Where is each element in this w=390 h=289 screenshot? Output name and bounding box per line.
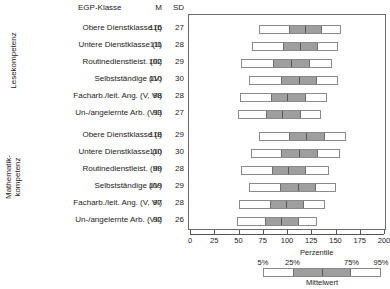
row-label: Untere Dienstklasse (II) [30, 40, 162, 49]
x-axis-tick-label: 200 [378, 236, 390, 245]
legend-box [263, 268, 381, 277]
boxplot-bar [252, 42, 338, 51]
boxplot-bar [241, 166, 328, 175]
x-axis-tick-label: 150 [329, 236, 342, 245]
boxplot-bar [249, 183, 336, 192]
boxplot-mean-line [306, 133, 307, 140]
row-label: Routinedienstleist. (III) [30, 164, 162, 173]
row-label: Facharb./leit. Ang. (V, VI) [30, 91, 162, 100]
column-header-m: M [146, 3, 162, 12]
row-mean-value: 102 [144, 57, 162, 66]
row-mean-value: 110 [144, 74, 162, 83]
row-sd-value: 30 [166, 147, 184, 156]
row-sd-value: 27 [166, 23, 184, 32]
boxplot-bar [239, 200, 325, 209]
row-sd-value: 29 [166, 57, 184, 66]
boxplot-mean-line [286, 201, 287, 208]
row-label: Routinedienstleist. (III) [30, 57, 162, 66]
row-sd-value: 26 [166, 215, 184, 224]
row-label: Facharb./leit. Ang. (V, VI) [30, 198, 162, 207]
row-sd-value: 28 [166, 91, 184, 100]
boxplot-bar [237, 217, 318, 226]
boxplot-mean-line [299, 77, 300, 84]
boxplot-bar [240, 93, 327, 102]
boxplot-bar [241, 59, 331, 68]
boxplot-mean-line [287, 94, 288, 101]
row-sd-value: 28 [166, 164, 184, 173]
boxplot-mean-line [305, 26, 306, 33]
boxplot-mean-line [288, 167, 289, 174]
row-label: Selbstständige (IV) [30, 181, 162, 190]
group-label-mathematikkompetenz: Mathematik- kompetenz [4, 142, 22, 212]
x-axis [190, 234, 384, 235]
column-header-egp: EGP-Klasse [78, 3, 122, 12]
boxplot-bar [259, 25, 341, 34]
legend-percentile-label: 5% [258, 258, 269, 267]
boxplot-mean-line [299, 150, 300, 157]
x-axis-tick-label: 50 [234, 236, 242, 245]
legend-mean-label: Mittelwert [306, 278, 338, 287]
row-label: Untere Dienstklasse (II) [30, 147, 162, 156]
row-mean-value: 116 [144, 23, 162, 32]
x-axis-tick-label: 125 [305, 236, 318, 245]
legend-percentile-label: 95% [373, 258, 388, 267]
row-label: Obere Dienstklasse (I) [30, 130, 162, 139]
row-label: Un-/angelernte Arb. (VII) [30, 108, 162, 117]
x-axis-tick-label: 175 [353, 236, 366, 245]
x-axis-tick-label: 100 [281, 236, 294, 245]
x-axis-tick-label: 25 [210, 236, 218, 245]
x-axis-tick [384, 230, 385, 234]
row-sd-value: 29 [166, 181, 184, 190]
boxplot-mean-line [298, 184, 299, 191]
x-axis-tick [190, 230, 191, 234]
x-axis-tick-label: 75 [259, 236, 267, 245]
chart-figure: Lesekompetenz Mathematik- kompetenz EGP-… [0, 0, 390, 289]
x-axis-tick-label: 0 [188, 236, 192, 245]
row-mean-value: 110 [144, 147, 162, 156]
row-sd-value: 28 [166, 40, 184, 49]
row-sd-value: 29 [166, 130, 184, 139]
boxplot-mean-line [282, 111, 283, 118]
legend-percentile-label: 25% [285, 258, 300, 267]
boxplot-bar [238, 110, 321, 119]
x-axis-label: Perzentile [300, 248, 333, 257]
boxplot-iqr [271, 94, 307, 101]
x-axis-tick [336, 230, 337, 234]
boxplot-bar [259, 132, 346, 141]
boxplot-mean-line [291, 60, 292, 67]
row-mean-value: 97 [144, 198, 162, 207]
row-mean-value: 93 [144, 108, 162, 117]
row-mean-value: 118 [144, 130, 162, 139]
row-sd-value: 30 [166, 74, 184, 83]
boxplot-mean-line [300, 43, 301, 50]
group-label-lesekompetenz: Lesekompetenz [9, 26, 18, 96]
boxplot-bar [251, 149, 340, 158]
x-axis-tick [214, 230, 215, 234]
row-mean-value: 111 [144, 40, 162, 49]
x-axis-tick [360, 230, 361, 234]
legend-mean-line [322, 269, 323, 276]
x-axis-tick [311, 230, 312, 234]
row-label: Obere Dienstklasse (I) [30, 23, 162, 32]
boxplot-mean-line [281, 218, 282, 225]
legend-percentile-label: 75% [344, 258, 359, 267]
row-sd-value: 28 [166, 198, 184, 207]
row-mean-value: 92 [144, 215, 162, 224]
row-mean-value: 98 [144, 91, 162, 100]
row-label: Un-/angelernte Arb. (VII) [30, 215, 162, 224]
row-mean-value: 99 [144, 164, 162, 173]
row-label: Selbstständige (IV) [30, 74, 162, 83]
x-axis-tick [263, 230, 264, 234]
boxplot-bar [249, 76, 338, 85]
row-sd-value: 27 [166, 108, 184, 117]
x-axis-tick [239, 230, 240, 234]
x-axis-tick [287, 230, 288, 234]
plot-area [188, 14, 386, 230]
column-header-sd: SD [166, 3, 184, 12]
row-mean-value: 109 [144, 181, 162, 190]
